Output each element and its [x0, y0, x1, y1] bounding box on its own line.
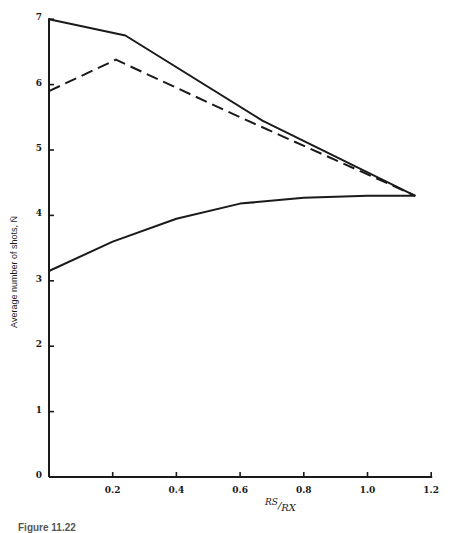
- x-tick-label: 1.0: [353, 485, 383, 495]
- y-tick-label: 5: [28, 143, 42, 153]
- x-tick-label: 1.2: [416, 485, 446, 495]
- axes: [49, 18, 432, 477]
- series-lower-solid: [49, 196, 415, 271]
- x-tick-label: 0.2: [98, 485, 128, 495]
- x-label-numerator: RS: [265, 497, 278, 507]
- y-tick-label: 3: [28, 274, 42, 284]
- series-group: [49, 19, 415, 271]
- x-tick-label: 0.8: [289, 485, 319, 495]
- series-upper-solid: [49, 19, 415, 196]
- y-tick-label: 6: [28, 78, 42, 88]
- y-tick-label: 1: [28, 405, 42, 415]
- figure-caption: Figure 11.22: [18, 522, 76, 533]
- series-dashed: [49, 60, 415, 196]
- y-axis-label: Average number of shots, N̄: [9, 216, 19, 328]
- x-label-denominator: RX: [281, 502, 296, 513]
- y-tick-label: 2: [28, 339, 42, 349]
- y-tick-label: 7: [28, 12, 42, 22]
- x-tick-label: 0.6: [225, 485, 255, 495]
- y-tick-label: 4: [28, 208, 42, 218]
- x-tick-label: 0.4: [161, 485, 191, 495]
- x-axis-label: RS/RX: [265, 500, 296, 511]
- y-tick-label: 0: [28, 470, 42, 480]
